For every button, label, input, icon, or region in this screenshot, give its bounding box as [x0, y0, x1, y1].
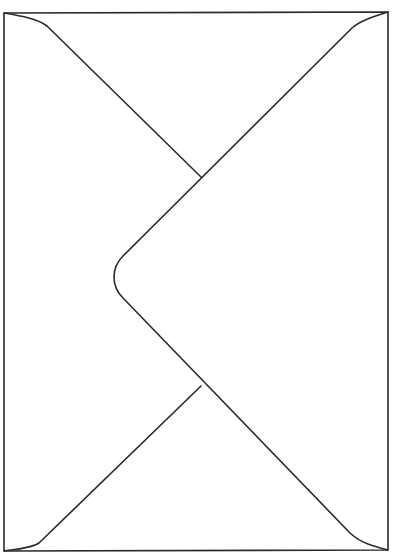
envelope-drawing [0, 0, 393, 555]
envelope-icon [0, 0, 393, 555]
background [0, 0, 393, 555]
